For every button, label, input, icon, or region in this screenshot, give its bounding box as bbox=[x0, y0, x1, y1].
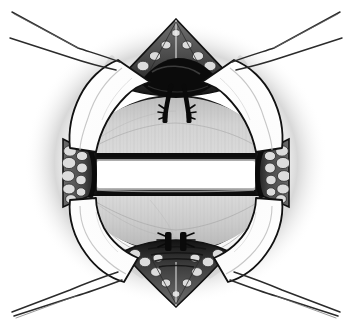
surgical-illustration-figure: Surgical exposure with four-blade self-r… bbox=[0, 0, 351, 327]
illustration-canvas bbox=[0, 0, 351, 327]
central-opening bbox=[86, 155, 266, 194]
